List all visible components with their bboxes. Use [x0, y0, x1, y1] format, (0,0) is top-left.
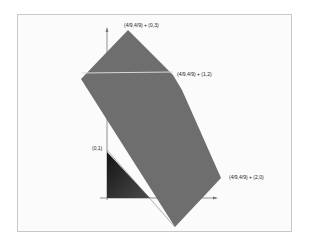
x-axis-arrow-icon — [213, 197, 218, 200]
label-right-lower-vertex: (4/9,4/9) + (2,0) — [229, 174, 264, 180]
label-top-vertex: (4/9,4/9) + (0,3) — [124, 22, 159, 28]
label-axis-point: (0,1) — [92, 145, 103, 151]
label-right-upper-vertex: (4/9,4/9) + (1,2) — [177, 71, 212, 77]
diagram-canvas: (4/9,4/9) + (0,3) (4/9,4/9) + (1,2) (4/9… — [0, 0, 315, 249]
translated-polytope — [81, 30, 221, 227]
y-axis-arrow-icon — [106, 27, 109, 32]
